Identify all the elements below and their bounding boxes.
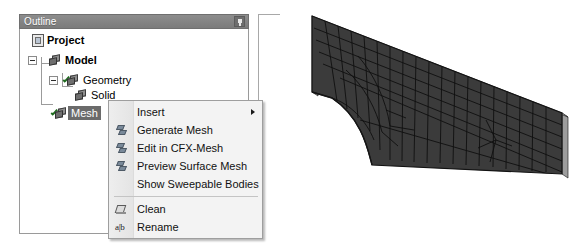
outline-titlebar: Outline [19, 14, 249, 29]
menu-item-label: Insert [137, 106, 165, 118]
rename-ab-icon: a|b [115, 221, 128, 234]
tree-item-label: Model [62, 54, 97, 66]
menu-item-label: Rename [137, 221, 179, 233]
tree-item-label: Mesh [68, 106, 101, 120]
menu-item-label: Clean [137, 203, 166, 215]
menu-separator [114, 196, 258, 197]
menu-item-label: Generate Mesh [137, 124, 213, 136]
tree-item-model[interactable]: Model [28, 52, 97, 68]
plate-front-face [312, 16, 562, 174]
cube-check-icon [54, 107, 68, 120]
tree-item-label: Geometry [80, 74, 131, 86]
menu-item-show-sweepable-bodies[interactable]: Show Sweepable Bodies [109, 175, 262, 193]
menu-item-preview-surface-mesh[interactable]: Preview Surface Mesh [109, 157, 262, 175]
panel-title: Outline [24, 17, 56, 27]
tree-item-geometry[interactable]: Geometry [49, 72, 131, 88]
menu-item-clean[interactable]: Clean [109, 200, 262, 218]
menu-item-generate-mesh[interactable]: Generate Mesh [109, 121, 262, 139]
tree-item-project[interactable]: Project [32, 32, 84, 48]
menu-item-edit-in-cfx-mesh[interactable]: Edit in CFX-Mesh [109, 139, 262, 157]
context-menu[interactable]: Insert Generate Mesh Edit in CFX-Mesh Pr… [108, 100, 263, 239]
3d-mesh-viewport[interactable] [290, 0, 588, 248]
expander-collapse-icon[interactable] [49, 76, 58, 85]
plate-side-face [562, 113, 568, 178]
document-icon [32, 34, 44, 47]
tree-line-model-mesh [41, 104, 53, 105]
menu-item-insert[interactable]: Insert [109, 103, 262, 121]
eraser-icon [115, 203, 128, 216]
menu-item-rename[interactable]: a|b Rename [109, 218, 262, 236]
viewport-top-edge [258, 14, 280, 15]
mesh-model [290, 0, 588, 248]
mesh-icon [115, 160, 128, 173]
mesh-icon [115, 124, 128, 137]
cube-icon [74, 89, 88, 102]
cube-icon [48, 54, 62, 67]
menu-item-label: Show Sweepable Bodies [137, 178, 259, 190]
menu-item-label: Preview Surface Mesh [137, 160, 247, 172]
tree-item-label: Project [44, 34, 84, 46]
mesh-icon [115, 142, 128, 155]
pin-icon[interactable] [234, 16, 245, 27]
cube-check-icon [66, 74, 80, 87]
menu-item-label: Edit in CFX-Mesh [137, 142, 223, 154]
expander-collapse-icon[interactable] [28, 56, 37, 65]
chevron-right-icon [251, 109, 255, 115]
tree-item-mesh[interactable]: Mesh [54, 105, 101, 121]
